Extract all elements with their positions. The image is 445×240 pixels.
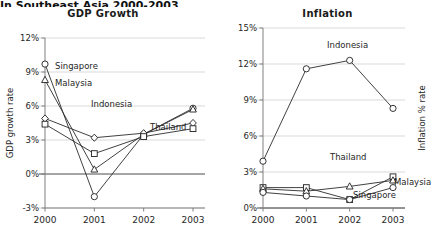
y-tick-label: 9%	[244, 95, 258, 105]
y-tick-label: 15%	[238, 23, 257, 33]
data-point	[190, 126, 196, 132]
data-point	[141, 134, 147, 140]
x-tick-label: 2003	[182, 215, 205, 225]
data-point	[347, 57, 353, 63]
data-point	[42, 61, 48, 67]
y-tick-label: 6%	[244, 131, 258, 141]
data-point	[91, 151, 97, 157]
chart-panel-inflation: Inflation 15%12%9%6%3%0%2000200120022003…	[222, 0, 445, 240]
series-label-singapore: Singapore	[55, 61, 98, 71]
data-point	[303, 66, 309, 72]
x-tick-label: 2000	[252, 215, 275, 225]
series-label-singapore: Singapore	[353, 190, 396, 200]
y-tick-label: 3%	[26, 135, 40, 145]
series-markers-indonesia	[260, 57, 396, 164]
y-tick-label: 12%	[20, 33, 39, 43]
data-point	[91, 194, 97, 200]
series-label-thailand: Thailand	[149, 122, 187, 132]
y-tick-label: 12%	[238, 59, 257, 69]
series-label-indonesia: Indonesia	[91, 99, 132, 109]
y-axis-title: GDP growth rate	[5, 88, 15, 159]
y-tick-label: 0%	[244, 203, 258, 213]
y-tick-label: 3%	[244, 167, 258, 177]
chart-panel-gdp-growth: GDP Growth 12%9%6%3%0%-3%200020012002200…	[0, 0, 222, 240]
data-point	[91, 166, 98, 172]
data-point	[347, 197, 353, 203]
series-label-thailand: Thailand	[329, 152, 367, 162]
data-point	[42, 76, 49, 82]
y-axis-title: Inflation % rate	[417, 85, 427, 151]
x-tick-label: 2002	[132, 215, 155, 225]
series-line-indonesia	[263, 60, 393, 161]
y-tick-label: 0%	[26, 169, 40, 179]
x-tick-label: 2002	[338, 215, 361, 225]
x-tick-label: 2001	[83, 215, 106, 225]
x-tick-label: 2003	[382, 215, 405, 225]
gdp-growth-plot: 12%9%6%3%0%-3%2000200120022003GDP growth…	[0, 0, 222, 240]
data-point	[260, 158, 266, 164]
x-tick-label: 2001	[295, 215, 318, 225]
inflation-plot: 15%12%9%6%3%0%2000200120022003Inflation …	[222, 0, 445, 240]
series-label-malaysia: Malaysia	[394, 177, 431, 187]
series-label-malaysia: Malaysia	[55, 78, 92, 88]
x-tick-label: 2000	[34, 215, 57, 225]
y-tick-label: 9%	[26, 67, 40, 77]
data-point	[42, 121, 48, 127]
y-tick-label: -3%	[22, 203, 39, 213]
series-label-indonesia: Indonesia	[327, 40, 368, 50]
data-point	[390, 105, 396, 111]
data-point	[303, 193, 309, 199]
y-tick-label: 6%	[26, 101, 40, 111]
data-point	[260, 189, 266, 195]
